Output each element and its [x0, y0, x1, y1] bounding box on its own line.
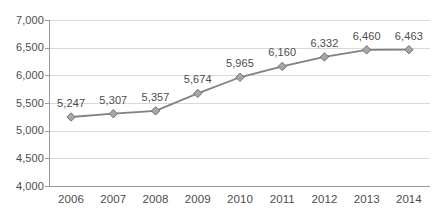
y-axis-labels: 7,0006,5006,0005,5005,0004,5004,000 [0, 0, 44, 220]
y-axis-tick-label: 4,000 [0, 181, 44, 192]
y-axis-tick-label: 4,500 [0, 153, 44, 164]
data-point-label: 5,247 [57, 98, 85, 109]
data-point-label: 5,307 [99, 95, 127, 106]
x-axis-tick-label: 2006 [58, 193, 84, 205]
data-point-marker [194, 89, 202, 97]
x-axis-tick-label: 2013 [354, 193, 380, 205]
data-point-marker [362, 46, 370, 54]
y-axis-tick-label: 6,000 [0, 70, 44, 81]
x-axis-labels: 200620072008200920102011201220132014 [50, 193, 430, 213]
x-axis-tick-label: 2011 [270, 193, 295, 205]
data-point-marker [278, 62, 286, 70]
data-point-marker [320, 53, 328, 61]
x-axis-tick-label: 2007 [100, 193, 126, 205]
y-axis-tick-label: 5,500 [0, 98, 44, 109]
x-axis-tick-label: 2014 [396, 193, 422, 205]
data-point-label: 6,332 [310, 38, 338, 49]
data-point-label: 6,160 [268, 47, 296, 58]
x-axis-tick-label: 2009 [185, 193, 211, 205]
line-chart: 7,0006,5006,0005,5005,0004,5004,000 5,24… [0, 0, 438, 220]
data-point-marker [67, 113, 75, 121]
x-axis-tick-label: 2008 [143, 193, 169, 205]
data-point-label: 6,460 [353, 31, 381, 42]
plot-area: 5,2475,3075,3575,6745,9656,1606,3326,460… [50, 20, 430, 186]
x-axis-line [49, 186, 430, 187]
data-point-label: 6,463 [395, 31, 423, 42]
x-axis-tick-label: 2010 [227, 193, 253, 205]
data-point-label: 5,965 [226, 58, 254, 69]
data-point-label: 5,357 [142, 92, 170, 103]
data-point-marker [109, 109, 117, 117]
data-point-marker [151, 107, 159, 115]
y-axis-tick-label: 5,000 [0, 125, 44, 136]
y-axis-tick-label: 7,000 [0, 15, 44, 26]
data-point-label: 5,674 [184, 74, 212, 85]
data-point-marker [236, 73, 244, 81]
y-axis-tick-label: 6,500 [0, 42, 44, 53]
data-point-marker [405, 46, 413, 54]
x-axis-tick-label: 2012 [311, 193, 337, 205]
